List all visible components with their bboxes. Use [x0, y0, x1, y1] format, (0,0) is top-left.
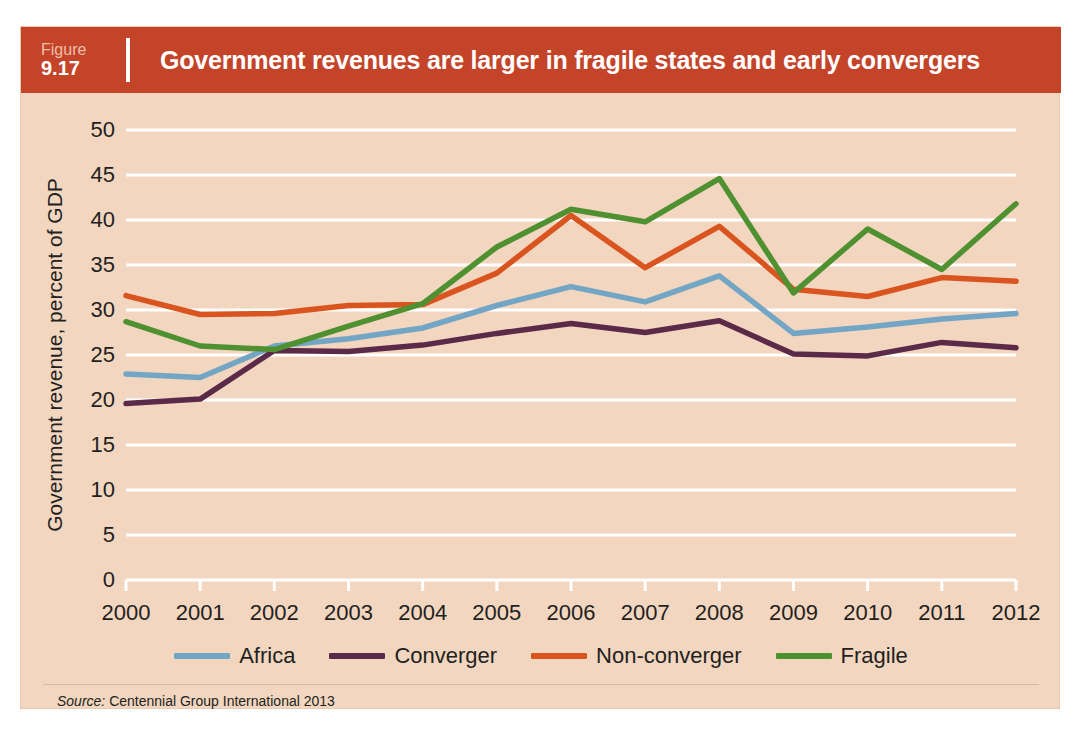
legend-label: Africa: [239, 643, 295, 669]
source-prefix-label: Source:: [57, 693, 105, 709]
y-axis-tick-label: 45: [69, 162, 115, 188]
figure-number-block: Figure 9.17: [21, 41, 126, 80]
line-chart-svg: [126, 130, 1016, 580]
source-text-label: Centennial Group International 2013: [109, 693, 335, 709]
y-axis-tick-label: 35: [69, 252, 115, 278]
legend-color-swatch: [776, 653, 832, 659]
legend-item-converger[interactable]: Converger: [329, 643, 497, 669]
legend-item-fragile[interactable]: Fragile: [776, 643, 908, 669]
y-axis-tick-label: 25: [69, 342, 115, 368]
y-axis-tick-label: 10: [69, 477, 115, 503]
figure-number-label: 9.17: [41, 58, 126, 80]
y-axis-tick-label: 30: [69, 297, 115, 323]
y-axis-tick-label: 5: [69, 522, 115, 548]
legend-label: Non-converger: [596, 643, 742, 669]
page-title: Government revenues are larger in fragil…: [160, 46, 980, 75]
source-divider: [43, 684, 1039, 685]
legend-color-swatch: [174, 653, 230, 659]
legend-color-swatch: [329, 653, 385, 659]
figure-header-band: Figure 9.17 Government revenues are larg…: [21, 27, 1061, 93]
y-axis-tick-label: 40: [69, 207, 115, 233]
figure-container: Figure 9.17 Government revenues are larg…: [20, 26, 1060, 709]
series-line-converger: [126, 321, 1016, 404]
legend-label: Converger: [394, 643, 497, 669]
legend-label: Fragile: [841, 643, 908, 669]
legend-color-swatch: [531, 653, 587, 659]
header-divider: [126, 38, 130, 82]
chart-legend: AfricaConvergerNon-convergerFragile: [21, 643, 1061, 669]
source-note: Source: Centennial Group International 2…: [57, 693, 335, 709]
legend-item-non-converger[interactable]: Non-converger: [531, 643, 742, 669]
x-axis-tick-label: 2012: [971, 600, 1061, 626]
legend-item-africa[interactable]: Africa: [174, 643, 295, 669]
y-axis-tick-label: 50: [69, 117, 115, 143]
chart-region: Government revenue, percent of GDP 05101…: [21, 93, 1061, 710]
figure-word-label: Figure: [41, 41, 126, 58]
y-axis-tick-label: 15: [69, 432, 115, 458]
y-axis-tick-label: 20: [69, 387, 115, 413]
y-axis-tick-label: 0: [69, 567, 115, 593]
plot-area: 2000200120022003200420052006200720082009…: [126, 130, 1016, 580]
